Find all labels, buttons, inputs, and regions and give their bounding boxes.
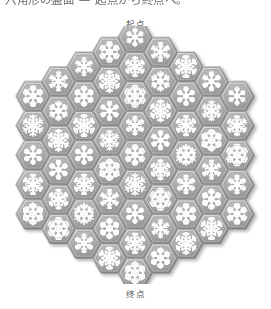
snowflake-icon bbox=[176, 233, 195, 254]
snowflake-icon bbox=[151, 100, 170, 121]
snowflake-icon bbox=[100, 71, 119, 92]
snowflake-icon bbox=[176, 56, 197, 77]
board-svg bbox=[0, 26, 271, 284]
hexagonal-snowflake-board bbox=[0, 26, 271, 284]
snowflake-icon bbox=[125, 174, 144, 195]
snowflake-icon bbox=[99, 248, 120, 269]
snowflake-icon bbox=[201, 218, 222, 239]
tile-layer bbox=[17, 26, 255, 284]
snowflake-icon bbox=[49, 130, 68, 151]
clipped-top-text: 六角形の盤面 — 起点から終点へ。 bbox=[0, 0, 271, 5]
snowflake-icon bbox=[74, 115, 95, 136]
snowflake-icon bbox=[23, 115, 42, 136]
end-point-label: 终点 bbox=[0, 287, 271, 299]
clipped-top-text-content: 六角形の盤面 — 起点から終点へ。 bbox=[0, 0, 271, 5]
